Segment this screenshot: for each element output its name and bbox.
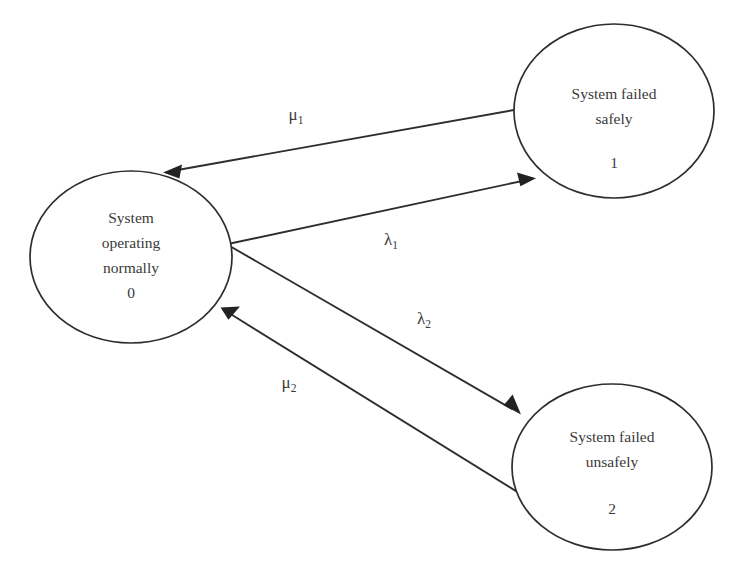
edge-label-lambda1: λ1 xyxy=(384,230,398,251)
edge-label-mu1-symbol: μ xyxy=(289,105,298,124)
edge-label-mu2-symbol: μ xyxy=(282,373,291,392)
bleed-line-3 xyxy=(6,503,62,517)
edge-lambda2-line xyxy=(228,245,512,409)
edge-mu2 xyxy=(221,306,548,511)
diagram-canvas: System operating normally 0 System faile… xyxy=(0,0,738,574)
edge-lambda2 xyxy=(228,245,521,414)
node-state-2-index: 2 xyxy=(608,500,616,517)
edge-lambda1-arrowhead xyxy=(517,172,536,186)
bleed-line-2 xyxy=(16,477,64,491)
edge-label-lambda1-subscript: 1 xyxy=(392,239,398,251)
edge-label-lambda2: λ2 xyxy=(417,309,431,330)
node-state-2[interactable]: System failed unsafely 2 xyxy=(512,384,712,550)
edge-label-lambda2-subscript: 2 xyxy=(425,318,431,330)
node-state-2-label-line-2: unsafely xyxy=(586,453,639,470)
bleed-line-4 xyxy=(8,529,64,543)
edge-mu1-line xyxy=(172,110,514,171)
edge-label-mu1: μ1 xyxy=(289,105,304,126)
node-state-0-index: 0 xyxy=(127,284,135,301)
node-state-2-label-line-1: System failed xyxy=(570,428,655,445)
edge-label-mu1-subscript: 1 xyxy=(298,114,304,126)
node-state-0-ellipse[interactable] xyxy=(30,171,232,343)
node-state-1-index: 1 xyxy=(610,154,618,171)
edge-label-mu2-subscript: 2 xyxy=(291,382,297,394)
node-state-1[interactable]: System failed safely 1 xyxy=(514,24,714,198)
edge-lambda1-line xyxy=(228,180,527,244)
edge-mu2-line xyxy=(229,313,548,511)
node-state-0-label-line-2: operating xyxy=(102,234,161,251)
node-state-0[interactable]: System operating normally 0 xyxy=(30,171,232,343)
edge-lambda2-arrowhead xyxy=(504,395,521,415)
edge-lambda1 xyxy=(228,172,536,244)
state-transition-diagram: System operating normally 0 System faile… xyxy=(0,0,738,574)
node-state-1-label-line-2: safely xyxy=(595,110,632,127)
scan-bleed-artifact xyxy=(6,451,70,543)
edge-mu1 xyxy=(163,110,514,179)
node-state-1-label-line-1: System failed xyxy=(572,85,657,102)
node-state-0-label-line-1: System xyxy=(108,209,154,226)
bleed-line-1 xyxy=(10,451,70,465)
edge-label-mu2: μ2 xyxy=(282,373,297,394)
node-state-0-label-line-3: normally xyxy=(103,259,159,276)
